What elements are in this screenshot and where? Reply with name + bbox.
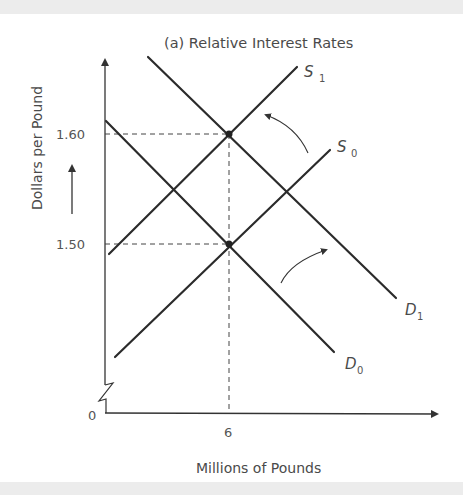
- label-s1: S 1: [304, 63, 325, 84]
- equilibrium-point-1-50: [226, 241, 233, 248]
- label-d0: D 0: [345, 355, 363, 376]
- chart: (a) Relative Interest Rates 0 1.60 1.50 …: [0, 0, 463, 495]
- svg-text:0: 0: [351, 148, 357, 159]
- y-tick-1-60: 1.60: [56, 127, 85, 142]
- y-axis: [99, 60, 113, 413]
- svg-text:S: S: [337, 138, 347, 156]
- svg-text:0: 0: [357, 365, 363, 376]
- supply-shift-arrow-icon: [266, 115, 308, 153]
- svg-text:D: D: [345, 355, 357, 373]
- label-s0: S 0: [337, 138, 357, 159]
- curve-s0: [115, 150, 330, 357]
- dashed-guides: [105, 134, 229, 413]
- x-axis: [105, 413, 437, 414]
- curve-d0: [106, 121, 334, 352]
- x-axis-label: Millions of Pounds: [196, 460, 321, 476]
- curve-s1: [109, 67, 297, 254]
- label-d1: D 1: [405, 301, 423, 322]
- chart-title: (a) Relative Interest Rates: [164, 35, 353, 51]
- demand-shift-arrow-icon: [281, 250, 326, 283]
- origin-label: 0: [88, 408, 96, 423]
- svg-text:D: D: [405, 301, 417, 319]
- y-tick-1-50: 1.50: [56, 237, 85, 252]
- svg-text:1: 1: [417, 311, 423, 322]
- y-axis-label: Dollars per Pound: [29, 86, 45, 210]
- x-tick-6: 6: [224, 425, 232, 440]
- svg-text:S: S: [304, 63, 314, 81]
- equilibrium-point-1-60: [226, 131, 233, 138]
- svg-text:1: 1: [319, 73, 325, 84]
